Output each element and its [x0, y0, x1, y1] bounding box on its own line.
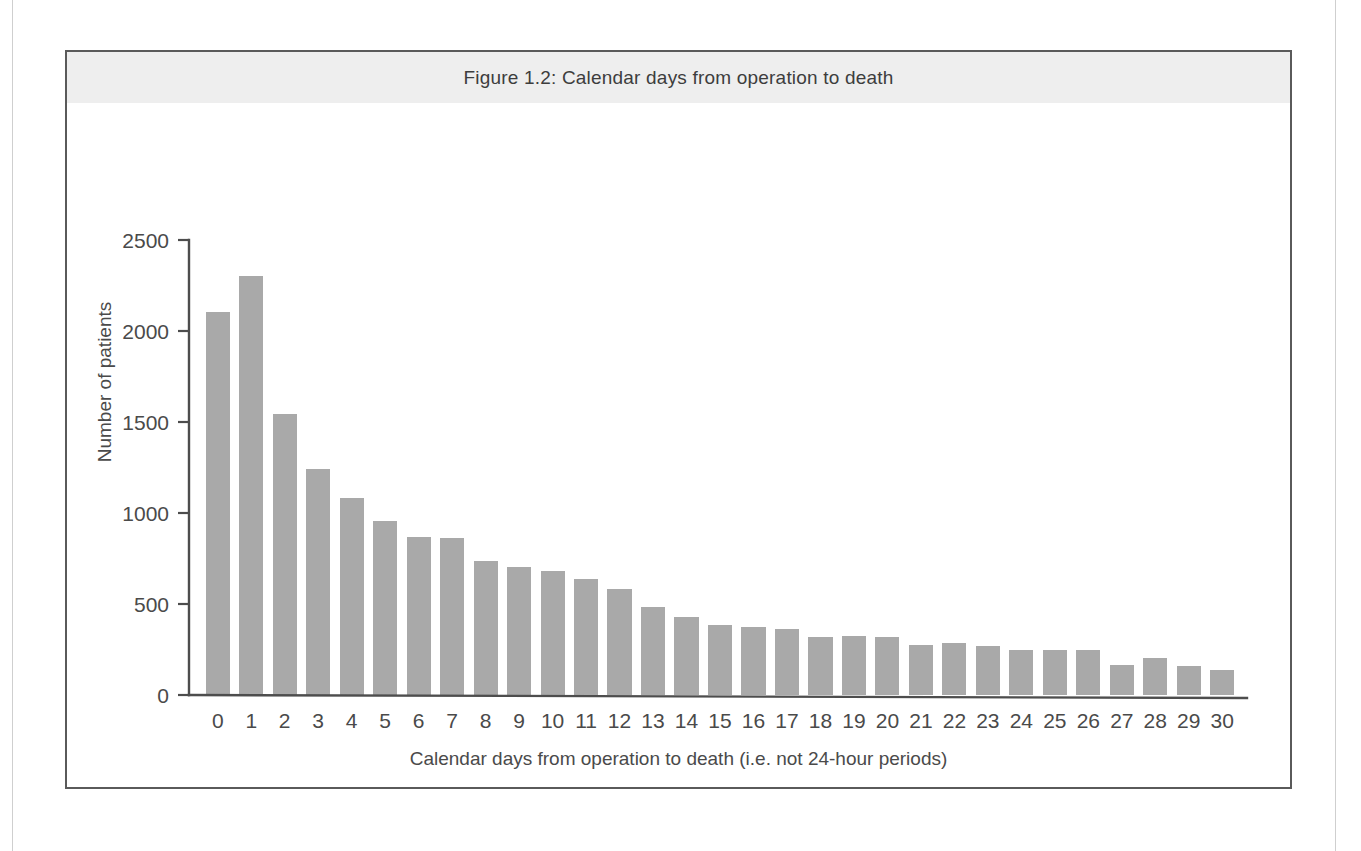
- figure-header-band: Figure 1.2: Calendar days from operation…: [67, 52, 1290, 103]
- x-tick-label-10: 10: [541, 709, 564, 732]
- bar-18: [808, 637, 832, 695]
- bar-2: [273, 414, 297, 695]
- bar-13: [641, 607, 665, 695]
- plot-area: Number of patients 050010001500200025000…: [67, 103, 1290, 787]
- bar-28: [1143, 658, 1167, 695]
- x-tick-label-19: 19: [842, 709, 865, 732]
- x-tick-label-7: 7: [446, 709, 458, 732]
- bar-chart: 0500100015002000250001234567891011121314…: [67, 103, 1290, 743]
- bar-19: [842, 636, 866, 695]
- bar-15: [708, 625, 732, 695]
- bar-9: [507, 567, 531, 695]
- x-tick-label-22: 22: [943, 709, 966, 732]
- figure-container: Figure 1.2: Calendar days from operation…: [65, 50, 1292, 789]
- x-tick-label-8: 8: [480, 709, 492, 732]
- y-tick-label-1500: 1500: [122, 411, 169, 434]
- x-tick-label-24: 24: [1010, 709, 1034, 732]
- x-tick-label-28: 28: [1144, 709, 1167, 732]
- bar-8: [474, 561, 498, 695]
- bar-22: [942, 643, 966, 695]
- y-tick-label-500: 500: [134, 593, 169, 616]
- x-tick-label-20: 20: [876, 709, 899, 732]
- bar-16: [741, 627, 765, 695]
- bar-30: [1210, 670, 1234, 695]
- bar-10: [541, 571, 565, 695]
- figure-title: Figure 1.2: Calendar days from operation…: [463, 67, 893, 89]
- bar-26: [1076, 650, 1100, 695]
- x-tick-label-4: 4: [346, 709, 358, 732]
- x-tick-label-18: 18: [809, 709, 832, 732]
- bar-12: [607, 589, 631, 695]
- bar-17: [775, 629, 799, 695]
- bar-29: [1177, 666, 1201, 695]
- bar-7: [440, 538, 464, 695]
- x-tick-label-9: 9: [513, 709, 525, 732]
- x-tick-label-3: 3: [312, 709, 324, 732]
- bar-23: [976, 646, 1000, 695]
- x-tick-label-25: 25: [1043, 709, 1066, 732]
- x-tick-label-30: 30: [1211, 709, 1234, 732]
- x-tick-label-14: 14: [675, 709, 699, 732]
- y-tick-label-2500: 2500: [122, 229, 169, 252]
- bar-4: [340, 498, 364, 695]
- bar-21: [909, 645, 933, 695]
- x-axis-title: Calendar days from operation to death (i…: [67, 748, 1290, 770]
- x-tick-label-16: 16: [742, 709, 765, 732]
- y-tick-label-1000: 1000: [122, 502, 169, 525]
- bar-11: [574, 579, 598, 695]
- bar-25: [1043, 650, 1067, 695]
- y-tick-label-2000: 2000: [122, 320, 169, 343]
- bar-20: [875, 637, 899, 695]
- bar-24: [1009, 650, 1033, 696]
- bar-0: [206, 312, 230, 695]
- x-tick-label-6: 6: [413, 709, 425, 732]
- x-tick-label-21: 21: [909, 709, 932, 732]
- x-axis-line: [189, 695, 1247, 698]
- x-tick-label-12: 12: [608, 709, 631, 732]
- bar-5: [373, 521, 397, 695]
- x-tick-label-1: 1: [245, 709, 257, 732]
- page-margin-rule-left: [12, 0, 13, 851]
- x-tick-label-2: 2: [279, 709, 291, 732]
- bar-27: [1110, 665, 1134, 695]
- x-tick-label-26: 26: [1077, 709, 1100, 732]
- bar-14: [674, 617, 698, 695]
- x-tick-label-0: 0: [212, 709, 224, 732]
- bar-1: [239, 276, 263, 695]
- x-tick-label-5: 5: [379, 709, 391, 732]
- x-tick-label-23: 23: [976, 709, 999, 732]
- y-tick-label-0: 0: [157, 684, 169, 707]
- x-tick-label-15: 15: [708, 709, 731, 732]
- x-tick-label-13: 13: [641, 709, 664, 732]
- x-tick-label-27: 27: [1110, 709, 1133, 732]
- bar-6: [407, 537, 431, 695]
- page-margin-rule-right: [1335, 0, 1336, 851]
- bar-3: [306, 469, 330, 695]
- x-tick-label-29: 29: [1177, 709, 1200, 732]
- x-tick-label-11: 11: [575, 709, 597, 732]
- x-tick-label-17: 17: [775, 709, 798, 732]
